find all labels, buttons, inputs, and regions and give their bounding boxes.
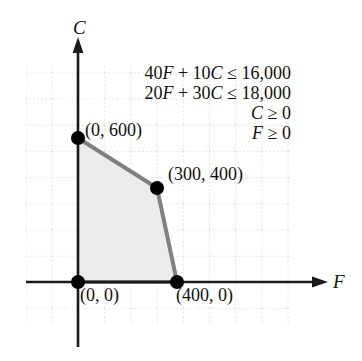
constraint-1-text: 40F + 10C ≤ 16,000 bbox=[144, 63, 291, 83]
vertex-label-300-400: (300, 400) bbox=[168, 165, 243, 183]
constraint-2-text: 20F + 30C ≤ 18,000 bbox=[144, 83, 291, 103]
constraint-2: 20F + 30C ≤ 18,000 bbox=[110, 83, 291, 103]
vertex-dot-300-400 bbox=[150, 181, 164, 195]
constraint-3-text: C ≥ 0 bbox=[251, 103, 291, 123]
linear-programming-figure: C F (0, 600) (300, 400) (0, 0) (400, 0) … bbox=[0, 0, 362, 361]
constraint-1: 40F + 10C ≤ 16,000 bbox=[110, 63, 291, 83]
vertex-label-400-0: (400, 0) bbox=[176, 286, 233, 304]
constraint-list: 40F + 10C ≤ 16,000 20F + 30C ≤ 18,000 C … bbox=[110, 63, 291, 143]
f-axis-arrow-icon bbox=[312, 277, 328, 288]
f-axis-label: F bbox=[333, 272, 345, 291]
vertex-dot-0-600 bbox=[71, 131, 85, 145]
constraint-3: C ≥ 0 bbox=[110, 103, 291, 123]
vertex-label-0-0: (0, 0) bbox=[80, 286, 119, 304]
constraint-4-text: F ≥ 0 bbox=[252, 123, 291, 143]
constraint-4: F ≥ 0 bbox=[110, 123, 291, 143]
c-axis-arrow-icon bbox=[73, 37, 84, 53]
c-axis-label: C bbox=[73, 18, 86, 37]
